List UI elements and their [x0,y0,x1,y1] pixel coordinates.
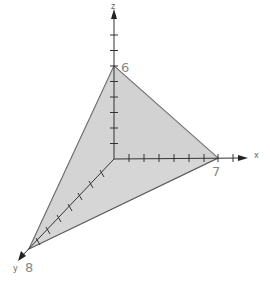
x-axis-label: x [254,151,259,160]
z-intercept-label: 6 [121,60,129,75]
z-axis-label: z [111,2,115,11]
tetrahedron-diagram [0,0,270,289]
xz-face [114,66,218,159]
y-intercept-label: 8 [25,260,33,275]
x-intercept-label: 7 [212,164,220,179]
y-axis-label: y [13,264,18,273]
